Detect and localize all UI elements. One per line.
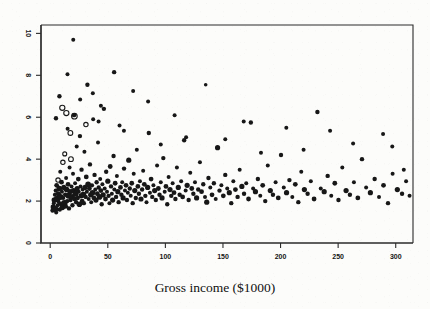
data-point bbox=[302, 187, 307, 192]
data-point bbox=[114, 195, 118, 199]
data-point bbox=[84, 175, 89, 180]
data-point bbox=[249, 120, 253, 124]
data-point bbox=[137, 192, 141, 196]
data-point bbox=[244, 181, 248, 185]
data-point bbox=[129, 181, 134, 186]
data-point bbox=[325, 174, 329, 178]
data-point bbox=[112, 70, 116, 74]
data-point bbox=[134, 196, 138, 200]
x-axis-ticks: 050100150200250300 bbox=[48, 243, 401, 260]
data-point bbox=[141, 169, 145, 173]
scatter-plot-figure: 050100150200250300 0246810 Gross income … bbox=[0, 0, 430, 309]
data-point bbox=[147, 131, 151, 135]
data-point bbox=[219, 183, 223, 187]
data-point bbox=[221, 193, 226, 198]
data-point bbox=[135, 148, 139, 152]
data-point bbox=[223, 173, 227, 177]
data-point bbox=[109, 184, 113, 188]
data-point bbox=[233, 187, 238, 192]
x-tick-label: 100 bbox=[160, 253, 172, 260]
data-point bbox=[154, 198, 158, 202]
data-point bbox=[167, 187, 172, 192]
data-point bbox=[242, 192, 246, 196]
y-tick-label: 2 bbox=[25, 199, 32, 203]
data-point bbox=[88, 162, 92, 166]
data-point bbox=[87, 197, 91, 201]
data-point bbox=[274, 180, 278, 184]
data-point bbox=[65, 72, 69, 76]
data-point bbox=[129, 194, 133, 198]
data-point bbox=[78, 134, 82, 138]
data-point bbox=[84, 122, 88, 126]
data-point bbox=[368, 190, 373, 195]
data-point bbox=[135, 184, 140, 189]
y-tick-label: 8 bbox=[25, 73, 32, 77]
data-point bbox=[159, 180, 163, 184]
data-point bbox=[167, 175, 171, 179]
data-point bbox=[225, 187, 229, 191]
data-point bbox=[101, 192, 106, 197]
data-point bbox=[122, 129, 126, 133]
data-point bbox=[71, 38, 75, 42]
data-point bbox=[91, 91, 95, 95]
data-point bbox=[210, 192, 215, 197]
data-point bbox=[61, 160, 65, 164]
data-point bbox=[203, 195, 207, 199]
data-point bbox=[70, 203, 74, 207]
data-point bbox=[268, 188, 273, 193]
data-point bbox=[179, 179, 183, 183]
data-point bbox=[105, 179, 110, 184]
data-point bbox=[102, 107, 106, 111]
data-point bbox=[360, 157, 364, 161]
data-point bbox=[113, 181, 118, 186]
data-point bbox=[175, 166, 179, 170]
data-point bbox=[332, 181, 337, 186]
data-point bbox=[96, 140, 100, 144]
data-point bbox=[208, 185, 212, 189]
data-point bbox=[149, 177, 154, 182]
x-axis-title: Gross income ($1000) bbox=[155, 280, 276, 295]
data-point bbox=[104, 170, 108, 174]
data-point bbox=[404, 179, 408, 183]
data-point bbox=[75, 145, 79, 149]
data-point bbox=[98, 177, 102, 181]
data-point bbox=[99, 104, 103, 108]
data-point bbox=[328, 129, 332, 133]
data-point bbox=[118, 124, 122, 128]
data-point bbox=[189, 186, 194, 191]
data-point bbox=[223, 137, 227, 141]
data-point bbox=[76, 177, 81, 182]
data-point bbox=[372, 177, 376, 181]
data-point bbox=[176, 185, 181, 190]
x-tick-label: 300 bbox=[390, 253, 402, 260]
data-point bbox=[156, 186, 161, 191]
data-point bbox=[180, 194, 185, 199]
data-point bbox=[381, 183, 386, 188]
data-point bbox=[386, 201, 390, 205]
data-point bbox=[67, 206, 71, 210]
data-point bbox=[115, 174, 119, 178]
data-point bbox=[184, 189, 188, 193]
y-tick-label: 4 bbox=[25, 157, 32, 161]
data-point bbox=[239, 184, 244, 189]
data-point bbox=[71, 172, 75, 176]
data-point bbox=[138, 179, 142, 183]
data-point bbox=[391, 172, 395, 176]
data-point bbox=[258, 194, 262, 198]
data-point bbox=[204, 83, 208, 87]
data-point bbox=[282, 185, 286, 189]
data-point bbox=[126, 191, 130, 195]
x-tick-label: 0 bbox=[48, 253, 52, 260]
data-point bbox=[336, 198, 340, 202]
data-point bbox=[100, 182, 104, 186]
data-point bbox=[150, 195, 154, 199]
data-point bbox=[159, 195, 164, 200]
data-point bbox=[377, 195, 381, 199]
data-point bbox=[256, 177, 260, 181]
data-point bbox=[60, 105, 65, 110]
y-tick-label: 6 bbox=[25, 115, 32, 119]
data-point bbox=[212, 181, 216, 185]
data-point bbox=[319, 187, 323, 191]
data-point bbox=[110, 192, 114, 196]
data-point bbox=[69, 157, 74, 162]
